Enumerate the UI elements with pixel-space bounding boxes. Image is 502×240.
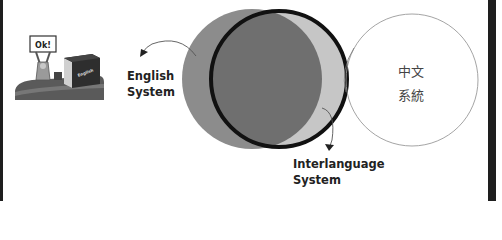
chinese-label-line2: 系統	[388, 84, 434, 108]
interlanguage-system-label: Interlanguage System	[293, 156, 385, 188]
english-label-line1: English	[127, 68, 175, 84]
chinese-system-label: 中文 系統	[388, 60, 434, 108]
chinese-label-line1: 中文	[388, 60, 434, 84]
illustration-ok-sign-person: Ok! English	[15, 36, 104, 100]
interlanguage-label-line1: Interlanguage	[293, 156, 385, 172]
sign-text: Ok!	[35, 41, 51, 50]
interlanguage-label-line2: System	[293, 172, 385, 188]
english-system-label: English System	[127, 68, 175, 100]
english-label-line2: System	[127, 84, 175, 100]
